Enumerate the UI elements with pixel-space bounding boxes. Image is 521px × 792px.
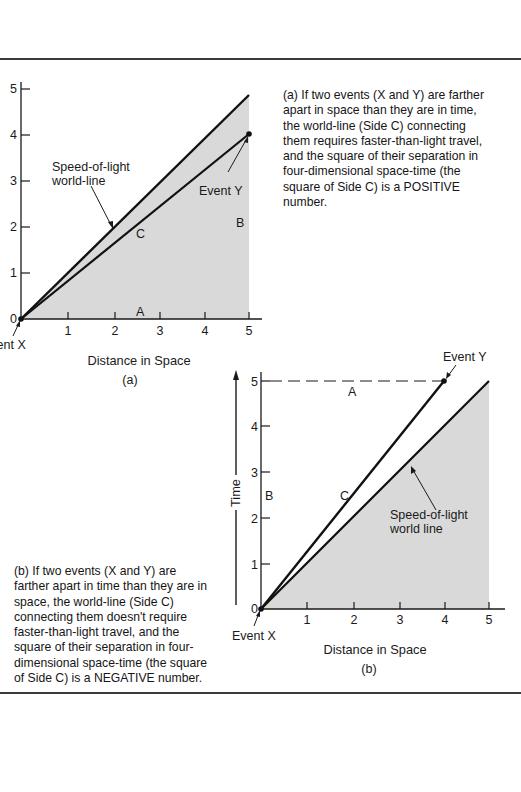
figure-a-y-ticks	[21, 89, 30, 273]
figure-a-x-tick-label: 1	[65, 324, 72, 338]
figure-a-event-y-dot	[246, 131, 252, 137]
figure-a-side-a-label: A	[136, 305, 145, 319]
figure-a-x-tick-label: 3	[157, 324, 164, 338]
figure-a-event-y-label: Event Y	[199, 184, 243, 198]
figure-a-caption: (a) If two events (X and Y) are farther …	[283, 88, 493, 210]
figure-a-label: (a)	[122, 373, 137, 387]
figure-a-x-tick-label: 5	[246, 324, 253, 338]
figure-a-y-tick-label: 1	[10, 266, 17, 280]
figure-a-event-x-label: Event X	[0, 338, 26, 352]
figure-b-caption: (b) If two events (X and Y) are farther …	[14, 564, 214, 686]
figure-a-side-c-label: C	[136, 227, 145, 241]
figure-a-y-tick-label: 2	[10, 220, 17, 234]
figure-a-y-tick-label: 5	[10, 82, 17, 96]
figure-a-y-tick-label: 0	[10, 312, 17, 326]
figure-a-light-line-label: world-line	[51, 174, 106, 188]
figure-a-x-axis-title: Distance in Space	[87, 353, 190, 368]
figure-a-side-b-label: B	[236, 216, 244, 230]
figure-a-light-line-label: Speed-of-light	[52, 160, 130, 174]
figure-a-x-tick-label: 2	[112, 324, 119, 338]
figure-a-event-x-dot	[18, 316, 24, 322]
figure-a-x-tick-label: 4	[202, 324, 209, 338]
figure-a-y-tick-label: 3	[10, 174, 17, 188]
figure-a-y-tick-label: 4	[10, 128, 17, 142]
figure-a-light-line-pointer-icon	[91, 186, 113, 229]
